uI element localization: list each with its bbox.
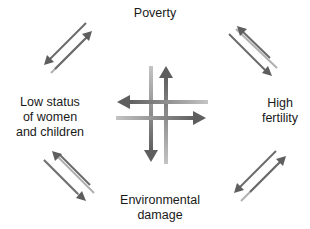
center-cross-arrows <box>116 66 208 164</box>
arrows-layer <box>0 0 310 229</box>
arrow-pair-poverty-lowstatus <box>44 23 92 73</box>
arrow-pair-poverty-fertility <box>124 24 277 76</box>
arrow-pair-fertility-environment <box>234 151 286 201</box>
arrow-pair-lowstatus-environment <box>43 151 95 201</box>
